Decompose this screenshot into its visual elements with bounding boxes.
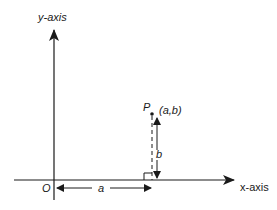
y-axis-label: y-axis xyxy=(37,11,67,23)
point-p xyxy=(150,112,154,116)
point-coords-label: (a,b) xyxy=(159,104,182,116)
right-angle-marker xyxy=(144,173,152,180)
point-p-label: P xyxy=(143,101,151,113)
a-distance-label: a xyxy=(98,182,104,194)
b-distance-label: b xyxy=(156,148,162,160)
coordinate-diagram: y-axis x-axis O P (a,b) b a xyxy=(0,0,277,210)
x-axis-label: x-axis xyxy=(240,181,269,193)
origin-label: O xyxy=(42,182,51,194)
